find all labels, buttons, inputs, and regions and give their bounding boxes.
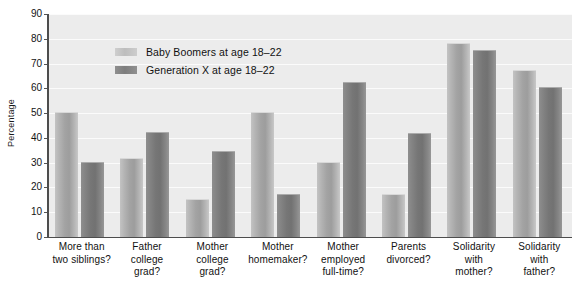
bar-series-1[interactable]: [473, 50, 496, 237]
bar-group: [49, 14, 114, 237]
bar-series-1[interactable]: [146, 132, 169, 237]
legend-swatch-icon-series-1: [115, 66, 137, 74]
y-axis-tick-labels: 9080706050403020100: [20, 9, 42, 241]
bar-series-1[interactable]: [343, 82, 366, 237]
y-axis-tick-label: 70: [20, 59, 42, 69]
y-axis-tick-label: 90: [20, 9, 42, 19]
x-axis-category-label-line: father?: [499, 266, 579, 279]
x-axis-category-label-line: with: [499, 254, 579, 267]
bar-series-1[interactable]: [408, 133, 431, 237]
bar-series-1[interactable]: [81, 162, 104, 237]
bar-series-0[interactable]: [317, 162, 340, 237]
y-axis-title-text: Percentage: [6, 98, 16, 146]
bar-series-0[interactable]: [120, 158, 143, 237]
bar-series-1[interactable]: [539, 87, 562, 237]
y-axis-tick-label: 40: [20, 133, 42, 143]
y-axis-tick-label: 10: [20, 207, 42, 217]
legend-label-series-0: Baby Boomers at age 18–22: [146, 46, 282, 58]
y-axis-title: Percentage: [0, 0, 22, 245]
x-axis-category-label-line: Solidarity: [499, 241, 579, 254]
bar-series-1[interactable]: [212, 151, 235, 237]
bar-group: [441, 14, 506, 237]
y-axis-tick-label: 20: [20, 182, 42, 192]
chart-legend: Baby Boomers at age 18–22 Generation X a…: [115, 46, 282, 76]
bar-group: [376, 14, 441, 237]
bar-group: [507, 14, 572, 237]
x-axis-category-label: Solidaritywithfather?: [499, 241, 579, 279]
y-axis-tick-label: 60: [20, 83, 42, 93]
legend-label-series-1: Generation X at age 18–22: [146, 64, 275, 76]
bar-series-0[interactable]: [251, 112, 274, 237]
legend-item-baby-boomers: Baby Boomers at age 18–22: [115, 46, 282, 58]
y-axis-tick-label: 30: [20, 158, 42, 168]
bar-series-1[interactable]: [277, 194, 300, 237]
bar-series-0[interactable]: [447, 43, 470, 237]
bar-chart-figure: Percentage 9080706050403020100 Baby Boom…: [0, 0, 579, 291]
x-axis-category-labels: More thantwo siblings?Fathercollegegrad?…: [49, 241, 572, 291]
y-axis-tick-label: 0: [20, 232, 42, 242]
bar-series-0[interactable]: [55, 112, 78, 237]
bar-group: [311, 14, 376, 237]
x-axis-category-label-line: grad?: [172, 266, 253, 279]
bar-series-0[interactable]: [513, 70, 536, 237]
legend-item-generation-x: Generation X at age 18–22: [115, 64, 282, 76]
legend-swatch-icon-series-0: [115, 48, 137, 56]
y-axis-tick-label: 80: [20, 34, 42, 44]
bar-series-0[interactable]: [186, 199, 209, 237]
x-axis-category-label-line: full-time?: [303, 266, 384, 279]
bar-series-0[interactable]: [382, 194, 405, 237]
y-axis-tick-label: 50: [20, 108, 42, 118]
